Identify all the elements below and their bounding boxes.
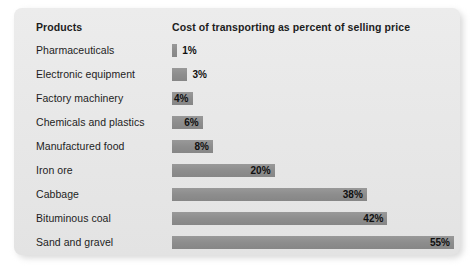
bar-value-label: 20% [251, 163, 271, 178]
bar-track: 38% [172, 187, 454, 202]
screenshot-stage: Products Cost of transporting as percent… [0, 0, 476, 271]
bar-track: 42% [172, 211, 454, 226]
chart-row: Cabbage38% [14, 184, 460, 208]
bar [172, 212, 387, 225]
category-label: Bituminous coal [36, 212, 111, 224]
category-label: Cabbage [36, 188, 79, 200]
category-label: Chemicals and plastics [36, 116, 144, 128]
bar-value-label: 1% [182, 43, 196, 58]
bar-value-label: 42% [363, 211, 383, 226]
category-label: Manufactured food [36, 140, 124, 152]
chart-row: Factory machinery4% [14, 88, 460, 112]
bar-track: 55% [172, 235, 454, 250]
horizontal-bar-chart: Products Cost of transporting as percent… [14, 8, 460, 255]
chart-row: Chemicals and plastics6% [14, 112, 460, 136]
bar-track: 3% [172, 67, 454, 82]
bar-value-label: 38% [343, 187, 363, 202]
bar [172, 236, 454, 249]
bar-track: 1% [172, 43, 454, 58]
bar-value-label: 8% [195, 139, 209, 154]
bar-value-label: 4% [174, 91, 188, 106]
chart-card: Products Cost of transporting as percent… [14, 8, 460, 255]
bar-value-label: 3% [192, 67, 206, 82]
category-label: Pharmaceuticals [36, 44, 114, 56]
category-label: Factory machinery [36, 92, 123, 104]
column-header-measure: Cost of transporting as percent of selli… [172, 21, 410, 33]
bar [172, 188, 367, 201]
category-label: Electronic equipment [36, 68, 135, 80]
chart-row: Sand and gravel55% [14, 232, 460, 255]
bar-value-label: 6% [184, 115, 198, 130]
chart-row: Electronic equipment3% [14, 64, 460, 88]
chart-row: Iron ore20% [14, 160, 460, 184]
bar-track: 6% [172, 115, 454, 130]
bar-track: 4% [172, 91, 454, 106]
category-label: Iron ore [36, 164, 73, 176]
bar [172, 44, 177, 57]
chart-row: Pharmaceuticals1% [14, 40, 460, 64]
chart-row: Manufactured food8% [14, 136, 460, 160]
chart-rows: Pharmaceuticals1%Electronic equipment3%F… [14, 40, 460, 255]
chart-row: Bituminous coal42% [14, 208, 460, 232]
bar-track: 8% [172, 139, 454, 154]
bar-track: 20% [172, 163, 454, 178]
category-label: Sand and gravel [36, 236, 113, 248]
chart-header-row: Products Cost of transporting as percent… [14, 21, 460, 37]
bar [172, 68, 187, 81]
bar-value-label: 55% [430, 235, 450, 250]
column-header-products: Products [36, 21, 82, 33]
